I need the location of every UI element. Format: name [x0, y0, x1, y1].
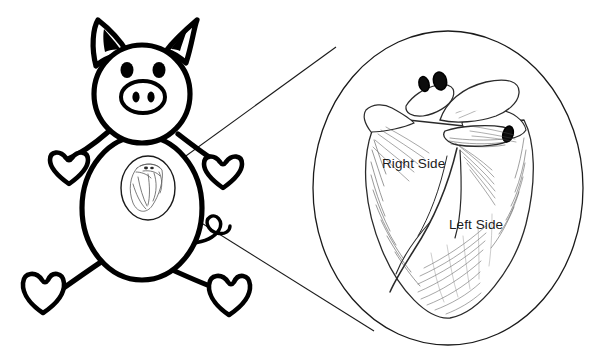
pig-eye-left [121, 62, 134, 78]
label-left-side: Left Side [449, 217, 503, 232]
figure-canvas: Right Side Left Side [0, 0, 600, 360]
pig-hoof-foot-right [209, 276, 250, 315]
pig-eye-right [153, 62, 166, 78]
heart-inset-outline [121, 156, 175, 220]
pig-nostril-left [132, 92, 139, 103]
pig-heart-diagram: Right Side Left Side [0, 0, 600, 360]
pig-heart-inset [121, 156, 175, 220]
pig-nostril-right [147, 92, 154, 103]
label-right-side: Right Side [382, 156, 445, 171]
pig-snout [121, 81, 165, 113]
pig-hoof-foot-left [23, 274, 64, 313]
pig-hoof-hand-right [204, 157, 242, 188]
